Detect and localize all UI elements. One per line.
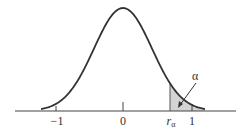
alpha-subscript: α — [171, 120, 175, 129]
tick-label-r-alpha: rα — [167, 115, 176, 129]
alpha-annotation: α — [192, 70, 198, 82]
tick-label-neg1: −1 — [51, 115, 64, 127]
tick-label-0: 0 — [120, 115, 126, 127]
tick-label-1: 1 — [189, 115, 195, 127]
density-curve — [41, 8, 205, 109]
alpha-shaded-region — [170, 83, 205, 111]
bell-curve-chart — [0, 0, 247, 131]
